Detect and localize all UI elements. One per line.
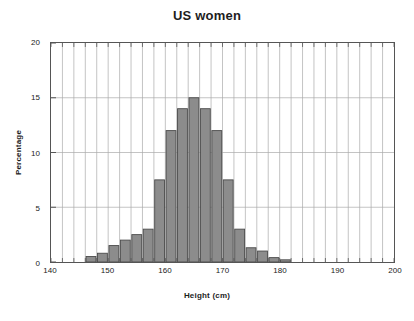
x-tick-label: 200 <box>388 266 401 275</box>
histogram-bar <box>143 229 153 262</box>
histogram-bar <box>200 109 210 262</box>
chart-title: US women <box>0 8 414 23</box>
x-tick-label: 170 <box>216 266 229 275</box>
histogram-bar <box>86 257 96 262</box>
histogram-bar <box>120 240 130 262</box>
y-tick-label: 5 <box>36 203 40 212</box>
x-tick-label: 140 <box>43 266 56 275</box>
y-axis-tick-labels: 05101520 <box>0 42 46 263</box>
y-tick-label: 0 <box>36 259 40 268</box>
y-tick-label: 10 <box>31 148 40 157</box>
histogram-bar <box>269 258 279 262</box>
histogram-bar <box>212 131 222 262</box>
histogram-bar <box>98 253 108 262</box>
histogram-bar <box>189 98 199 262</box>
x-tick-label: 160 <box>158 266 171 275</box>
y-tick-label: 20 <box>31 38 40 47</box>
histogram-bar <box>223 180 233 262</box>
x-tick-label: 190 <box>331 266 344 275</box>
x-tick-label: 150 <box>101 266 114 275</box>
x-axis-tick-labels: 140150160170180190200 <box>50 266 395 280</box>
x-tick-label: 180 <box>273 266 286 275</box>
histogram-bar <box>132 235 142 262</box>
histogram-bar <box>280 260 290 262</box>
x-axis-title: Height (cm) <box>0 291 414 300</box>
plot-area <box>50 42 395 263</box>
histogram-bar <box>109 246 119 262</box>
y-tick-label: 15 <box>31 93 40 102</box>
histogram-bar <box>258 251 268 262</box>
histogram-bar <box>235 229 245 262</box>
histogram-bar <box>246 248 256 262</box>
histogram-bar <box>155 180 165 262</box>
histogram-bar <box>166 131 176 262</box>
chart-figure: US women Percentage 05101520 14015016017… <box>0 0 414 321</box>
histogram-bar <box>178 109 188 262</box>
histogram-bars <box>51 43 394 262</box>
